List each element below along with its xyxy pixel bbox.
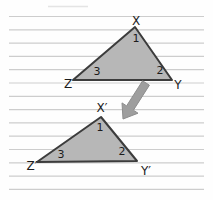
geometry-diagram: 132XZY132X′Z′Y′ [0, 0, 213, 200]
vertex-label-Yp-XpYpZp: Y′ [140, 164, 151, 178]
vertex-label-Xp-XpYpZp: X′ [97, 101, 108, 115]
vertex-label-Zp-XpYpZp: Z′ [27, 159, 38, 173]
vertex-label-Z-XYZ: Z [64, 77, 72, 91]
vertex-label-Y-XYZ: Y [173, 78, 182, 92]
vertex-label-X-XYZ: X [132, 14, 140, 28]
arrow-down-left-icon [122, 81, 149, 119]
notebook-paper-photo: 132XZY132X′Z′Y′ [0, 0, 213, 200]
angle-label-1-XYZ: 1 [133, 32, 140, 45]
angle-label-3-XpYpZp: 3 [58, 148, 65, 161]
angle-label-2-XYZ: 2 [157, 64, 164, 77]
angle-label-1-XpYpZp: 1 [97, 121, 104, 134]
angle-label-2-XpYpZp: 2 [119, 145, 126, 158]
angle-label-3-XYZ: 3 [94, 65, 101, 78]
